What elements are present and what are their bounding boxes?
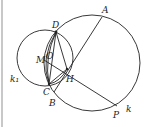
label-b: B <box>48 98 56 108</box>
label-h: H <box>65 74 74 84</box>
point-h <box>66 68 68 70</box>
point-c <box>48 83 50 85</box>
label-a: A <box>101 5 109 15</box>
label-c: C <box>43 87 50 97</box>
segment-d-h <box>56 32 67 69</box>
label-o: O <box>46 51 54 61</box>
label-d: D <box>51 20 59 30</box>
point-d <box>55 31 58 34</box>
label-m: M <box>35 55 46 65</box>
label-k1: k₁ <box>10 74 19 84</box>
segment-a-b <box>54 17 102 92</box>
label-p: P <box>112 110 120 120</box>
geometry-figure: A D O M H C B P k k₁ <box>0 0 147 127</box>
label-k: k <box>126 104 131 114</box>
